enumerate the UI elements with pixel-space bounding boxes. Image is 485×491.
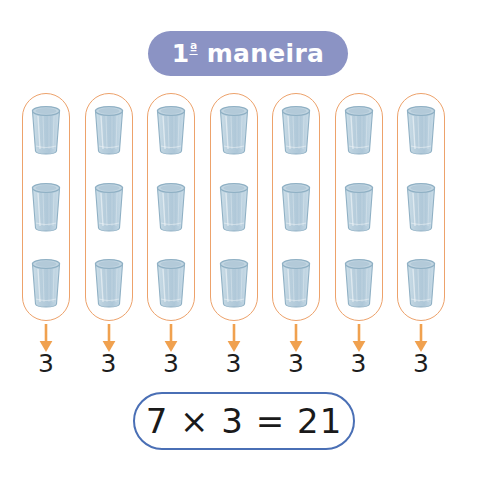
drinking-glass-icon <box>278 181 314 233</box>
glass-group: 3 <box>85 93 137 373</box>
drinking-glass-icon <box>216 257 252 309</box>
drinking-glass-icon <box>91 104 127 156</box>
drinking-glass-icon <box>91 181 127 233</box>
glass-groups-row: 3333333 <box>0 93 485 373</box>
group-count-label: 3 <box>22 351 70 376</box>
glass-group: 3 <box>272 93 324 373</box>
group-count-label: 3 <box>210 351 258 376</box>
drinking-glass-icon <box>278 257 314 309</box>
drinking-glass-icon <box>341 104 377 156</box>
equation-text: 7 × 3 = 21 <box>146 404 343 438</box>
drinking-glass-icon <box>403 257 439 309</box>
group-count-label: 3 <box>335 351 383 376</box>
drinking-glass-icon <box>28 181 64 233</box>
glass-group: 3 <box>397 93 449 373</box>
glass-group: 3 <box>210 93 262 373</box>
title-ordinal-suffix: ª <box>189 40 197 56</box>
drinking-glass-icon <box>91 257 127 309</box>
drinking-glass-icon <box>341 257 377 309</box>
glass-stack <box>397 93 445 321</box>
group-count-label: 3 <box>397 351 445 376</box>
title-badge: 1ª maneira <box>148 31 348 76</box>
equation-box: 7 × 3 = 21 <box>133 392 355 450</box>
glass-stack <box>210 93 258 321</box>
drinking-glass-icon <box>403 181 439 233</box>
glass-group: 3 <box>147 93 199 373</box>
drinking-glass-icon <box>216 181 252 233</box>
group-count-label: 3 <box>85 351 133 376</box>
glass-stack <box>272 93 320 321</box>
drinking-glass-icon <box>28 104 64 156</box>
group-count-label: 3 <box>147 351 195 376</box>
glass-stack <box>22 93 70 321</box>
drinking-glass-icon <box>278 104 314 156</box>
drinking-glass-icon <box>403 104 439 156</box>
worksheet-canvas: 1ª maneira 3333333 7 × 3 = 21 <box>0 0 485 491</box>
glass-group: 3 <box>335 93 387 373</box>
group-count-label: 3 <box>272 351 320 376</box>
drinking-glass-icon <box>28 257 64 309</box>
drinking-glass-icon <box>153 257 189 309</box>
title-ordinal-number: 1 <box>172 39 190 68</box>
glass-stack <box>335 93 383 321</box>
glass-stack <box>85 93 133 321</box>
drinking-glass-icon <box>153 104 189 156</box>
glass-stack <box>147 93 195 321</box>
drinking-glass-icon <box>341 181 377 233</box>
drinking-glass-icon <box>216 104 252 156</box>
glass-group: 3 <box>22 93 74 373</box>
title-word: maneira <box>207 39 325 68</box>
title-badge-label: 1ª maneira <box>172 41 324 66</box>
drinking-glass-icon <box>153 181 189 233</box>
